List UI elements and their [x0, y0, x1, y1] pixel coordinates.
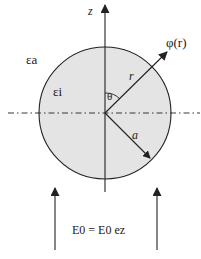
- r-label: r: [129, 69, 134, 83]
- sphere-in-field-diagram: z εa εi θ r φ(r) a E0 = E0 ez: [0, 0, 201, 259]
- field-equation: E0 = E0 ez: [72, 223, 125, 237]
- epsilon-a-label: εa: [26, 52, 37, 67]
- theta-label: θ: [107, 90, 112, 102]
- a-label: a: [132, 128, 138, 142]
- phi-label: φ(r): [166, 35, 187, 50]
- epsilon-i-label: εi: [53, 84, 62, 99]
- z-axis-label: z: [87, 4, 93, 18]
